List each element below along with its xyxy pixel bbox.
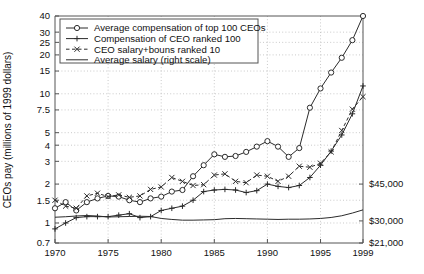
data-point-marker [169,189,174,194]
y-tick-label: 1 [45,217,50,228]
y-tick-label: 15 [39,65,50,76]
series-1 [52,83,366,232]
data-point-marker [95,196,100,201]
chart-container: 4030252015107.554321.510.7 1970197519801… [0,0,424,274]
y2-tick-label: $30,000 [369,215,403,226]
data-point-marker [52,206,57,211]
data-point-marker [254,144,259,149]
y-tick-label: 3 [45,156,50,167]
y-tick-label: 25 [39,37,50,48]
data-point-marker [137,200,142,205]
y-tick-label: 7.5 [37,104,50,115]
series-2 [52,94,365,211]
y-tick-label: 5 [45,127,50,138]
data-point-marker [244,149,249,154]
x-tick-label: 1980 [151,247,172,258]
data-point-marker [148,196,153,201]
data-point-marker [212,152,217,157]
y-tick-label: 4 [45,140,50,151]
data-point-marker [275,144,280,149]
chart-legend: Average compensation of top 100 CEOsComp… [60,19,266,65]
y-tick-label: 2 [45,178,50,189]
x-tick-label: 1970 [44,247,65,258]
y-axis-title: CEOs pay (millions of 1999 dollars) [2,52,13,209]
y2-axis-ticks: $45,000$30,000$21,000 [359,178,403,248]
y-tick-label: 40 [39,10,50,21]
y-tick-label: 1.5 [37,195,50,206]
x-tick-label: 1990 [257,247,278,258]
data-point-marker [360,13,365,18]
data-point-marker [233,153,238,158]
series-line-3 [55,210,363,220]
x-tick-label: 1995 [310,247,331,258]
data-point-marker [350,38,355,43]
y-axis-ticks: 4030252015107.554321.510.7 [37,10,59,248]
data-point-marker [127,198,132,203]
data-point-marker [180,187,185,192]
data-point-marker [265,139,270,144]
series-line-2 [55,97,363,209]
data-point-marker [286,154,291,159]
legend-label-2: CEO salary+bouns ranked 10 [94,44,220,55]
data-point-marker [307,105,312,110]
y2-tick-label: $45,000 [369,178,403,189]
data-point-marker [318,86,323,91]
data-point-marker [222,154,227,159]
data-point-marker [159,194,164,199]
data-point-marker [297,145,302,150]
data-point-marker [190,174,195,179]
x-tick-label: 1975 [98,247,119,258]
y-tick-label: 20 [39,49,50,60]
data-point-marker [201,163,206,168]
data-point-marker [329,70,334,75]
y-tick-label: 10 [39,88,50,99]
x-axis-ticks: 1970197519801985199019951999 [44,239,373,258]
x-tick-label: 1999 [352,247,373,258]
legend-label-1: Compensation of CEO ranked 100 [94,33,241,44]
data-point-marker [339,55,344,60]
legend-label-0: Average compensation of top 100 CEOs [94,22,266,33]
legend-label-3: Average salary (right scale) [94,54,211,65]
y2-tick-label: $21,000 [369,237,403,248]
series-3 [55,210,363,220]
data-point-marker [74,25,79,30]
data-point-marker [84,200,89,205]
chart-svg: 4030252015107.554321.510.7 1970197519801… [0,0,424,274]
x-tick-label: 1985 [204,247,225,258]
series-line-1 [55,86,363,229]
